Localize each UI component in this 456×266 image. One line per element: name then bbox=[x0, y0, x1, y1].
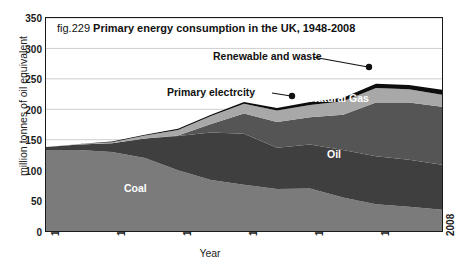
y-tick-150: 150 bbox=[8, 135, 42, 146]
label-oil: Oil bbox=[327, 148, 341, 160]
label-coal: Coal bbox=[124, 182, 147, 194]
chart-title-text: Primary energy consumption in the UK, 19… bbox=[93, 22, 355, 34]
y-tick-200: 200 bbox=[8, 105, 42, 116]
y-tick-300: 300 bbox=[8, 44, 42, 55]
label-natural-gas: Natural Gas bbox=[310, 92, 369, 104]
y-tick-0: 0 bbox=[8, 227, 42, 238]
label-primary-electricity: Primary electrcity bbox=[167, 86, 255, 98]
y-axis-ticks: 0 50 100 150 200 250 300 350 bbox=[0, 0, 42, 266]
figure-number: fig.229 bbox=[57, 22, 90, 34]
y-tick-100: 100 bbox=[8, 166, 42, 177]
x-axis-title: Year bbox=[170, 247, 250, 259]
y-tick-50: 50 bbox=[8, 196, 42, 207]
chart-title: fig.229 Primary energy consumption in th… bbox=[57, 22, 355, 34]
label-renewable-and-waste: Renewable and waste bbox=[213, 50, 322, 62]
y-tick-250: 250 bbox=[8, 74, 42, 85]
y-tick-350: 350 bbox=[8, 13, 42, 24]
x-tick-2008: 2008 bbox=[445, 214, 456, 236]
area-series-group bbox=[46, 84, 442, 231]
